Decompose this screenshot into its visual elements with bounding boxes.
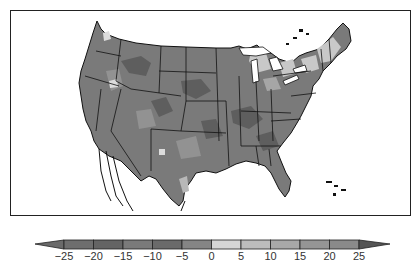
colorbar-segment [212,240,242,249]
colorbar-segment [153,240,183,249]
colorbar-segment [182,240,212,249]
colorbar-over-triangle [359,240,390,249]
colorbar-segment [64,240,94,249]
colorbar-segment [241,240,271,249]
colorbar-tick-label: 20 [323,250,335,262]
caribbean-islands [326,181,346,196]
colorbar-tick-label: 25 [353,250,365,262]
colorbar-tick-label: −10 [143,250,162,262]
colorbar-tick-label: 10 [264,250,276,262]
colorbar-segment [330,240,360,249]
colorbar-tick-label: 0 [208,250,214,262]
colorbar-tick-label: −15 [114,250,133,262]
colorbar-segments [64,240,359,249]
colorbar-segment [94,240,124,249]
colorbar: −25−20−15−10−50510152025 [0,236,420,266]
colorbar-under-triangle [35,240,64,249]
colorbar-tick-label: 5 [238,250,244,262]
canada-islands [286,29,309,45]
colorbar-tick-label: −20 [84,250,103,262]
colorbar-tick-label: −25 [55,250,74,262]
colorbar-segment [123,240,153,249]
us-map [11,11,409,214]
map-frame [10,10,411,216]
colorbar-tick-label: −5 [176,250,189,262]
colorbar-tick-label: 15 [294,250,306,262]
colorbar-segment [300,240,330,249]
colorbar-segment [271,240,301,249]
